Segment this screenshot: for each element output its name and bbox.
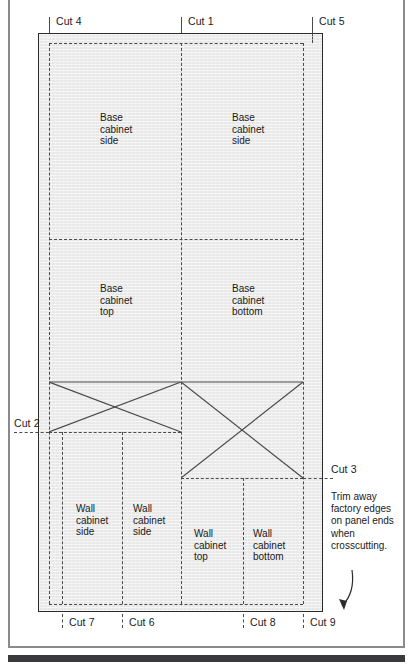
cut-9-tick <box>303 614 304 628</box>
cut-3-label: Cut 3 <box>331 463 357 475</box>
part-label-base-cabinet-side-right: Base cabinet side <box>232 112 264 147</box>
part-line-1: Wall <box>133 503 165 515</box>
part-line-2: cabinet <box>100 124 132 136</box>
cut-9-label: Cut 9 <box>310 616 336 628</box>
part-line-2: cabinet <box>100 295 132 307</box>
cut-1-label: Cut 1 <box>188 15 214 27</box>
cut-3-leader <box>303 478 333 479</box>
cut-7-tick <box>62 614 63 628</box>
cut-line-1-vertical <box>181 43 182 604</box>
part-line-2: cabinet <box>253 540 285 552</box>
cut-8-tick <box>243 614 244 628</box>
trim-note-arrow <box>330 568 370 616</box>
cut-line-8-vertical <box>243 478 244 604</box>
cut-5-extension <box>312 33 313 43</box>
cut-4-tick <box>49 17 50 33</box>
part-line-3: top <box>100 306 132 318</box>
part-line-1: Base <box>100 112 132 124</box>
panel-cut-diagram: Cut 4 Cut 1 Cut 5 Cut 7 Cut 6 Cut 8 Cut … <box>0 0 413 672</box>
part-line-1: Base <box>232 112 264 124</box>
part-line-2: cabinet <box>194 540 226 552</box>
cut-6-tick <box>122 614 123 628</box>
cut-2-leader <box>14 432 49 433</box>
cut-line-2-horizontal <box>49 432 181 433</box>
part-line-1: Wall <box>76 503 108 515</box>
figure-frame-bottom-rule <box>8 646 405 648</box>
cut-1-tick <box>181 17 182 33</box>
part-line-3: bottom <box>232 306 264 318</box>
cut-7-label: Cut 7 <box>69 616 95 628</box>
part-line-1: Wall <box>194 528 226 540</box>
cut-2-label: Cut 2 <box>14 417 40 429</box>
part-label-base-cabinet-top: Base cabinet top <box>100 283 132 318</box>
part-line-2: cabinet <box>232 295 264 307</box>
part-line-3: side <box>232 135 264 147</box>
part-line-2: cabinet <box>76 515 108 527</box>
part-line-3: side <box>76 526 108 538</box>
trim-line-left <box>49 43 50 604</box>
cut-5-label: Cut 5 <box>319 15 345 27</box>
part-label-wall-cabinet-bottom: Wall cabinet bottom <box>253 528 285 563</box>
cut-line-base-divider <box>49 239 303 240</box>
figure-frame-right-rule <box>403 0 405 648</box>
part-line-2: cabinet <box>232 124 264 136</box>
cut-6-label: Cut 6 <box>129 616 155 628</box>
part-label-wall-cabinet-side-2: Wall cabinet side <box>133 503 165 538</box>
part-label-wall-cabinet-side-1: Wall cabinet side <box>76 503 108 538</box>
trim-line-bottom <box>49 604 303 605</box>
cut-4-label: Cut 4 <box>56 15 82 27</box>
trim-away-note: Trim away factory edges on panel ends wh… <box>331 491 403 552</box>
part-line-3: bottom <box>253 551 285 563</box>
part-line-2: cabinet <box>133 515 165 527</box>
figure-bottom-bar <box>8 655 405 662</box>
figure-frame-left-rule <box>8 0 10 648</box>
trim-line-right <box>303 43 304 604</box>
cut-line-7-vertical <box>62 432 63 604</box>
cut-5-tick <box>312 17 313 33</box>
part-line-1: Wall <box>253 528 285 540</box>
part-line-1: Base <box>232 283 264 295</box>
part-line-3: side <box>133 526 165 538</box>
cut-line-3-horizontal <box>181 478 303 479</box>
part-label-wall-cabinet-top: Wall cabinet top <box>194 528 226 563</box>
part-line-1: Base <box>100 283 132 295</box>
cut-line-6-vertical <box>122 432 123 604</box>
trim-line-top <box>49 43 303 44</box>
part-label-base-cabinet-side-left: Base cabinet side <box>100 112 132 147</box>
part-label-base-cabinet-bottom: Base cabinet bottom <box>232 283 264 318</box>
part-line-3: top <box>194 551 226 563</box>
part-line-3: side <box>100 135 132 147</box>
cut-8-label: Cut 8 <box>250 616 276 628</box>
